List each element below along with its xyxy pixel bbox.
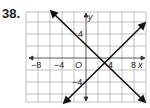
axes (29, 13, 145, 101)
coordinate-graph: −8 −4 O 4 8 x y 4 −4 (0, 0, 150, 108)
x-tick-label: −4 (54, 60, 64, 70)
origin-label: O (75, 60, 82, 70)
x-tick-label: −8 (31, 60, 41, 70)
x-tick-label: 8 (131, 60, 136, 70)
y-axis-label: y (87, 12, 93, 22)
x-axis-label: x (137, 60, 143, 70)
